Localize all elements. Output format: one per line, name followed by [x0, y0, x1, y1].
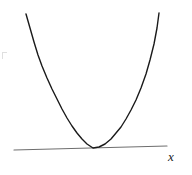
x-axis-label: x: [168, 150, 174, 163]
parabola-plot: [0, 0, 192, 175]
figure-container: x: [0, 0, 192, 175]
